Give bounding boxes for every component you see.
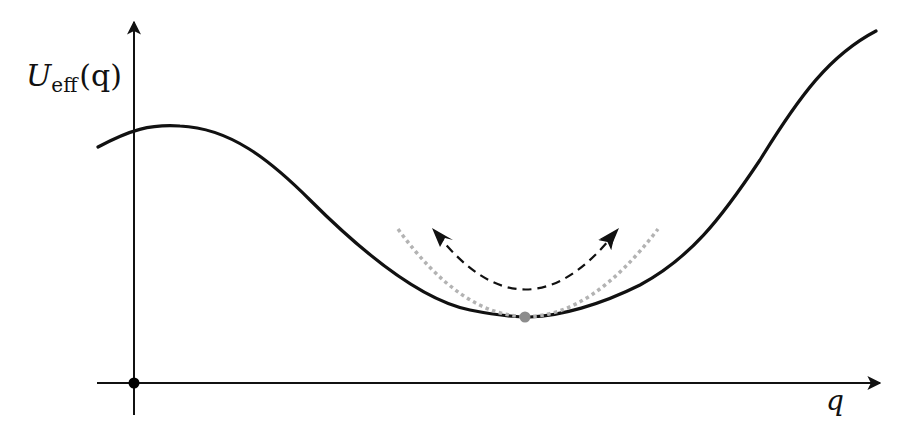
y-axis-label: Ueff(q) (26, 58, 122, 97)
arrowhead-right-icon (598, 228, 619, 247)
arrowhead-left-icon (432, 228, 453, 247)
potential-curve (98, 31, 876, 317)
equilibrium-point (520, 312, 531, 323)
x-axis-label: q (826, 384, 844, 417)
origin-point (129, 378, 140, 389)
harmonic-approximation-parabola (398, 229, 658, 317)
oscillation-arrow (437, 234, 614, 290)
diagram-canvas: Ueff(q) q (0, 0, 905, 437)
